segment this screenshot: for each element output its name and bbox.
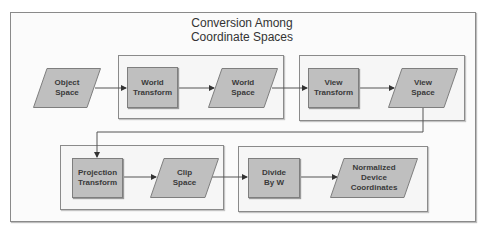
node-label: Space	[173, 178, 197, 188]
node-label: Object	[55, 78, 80, 88]
node-normalized-device-coordinates: NormalizedDeviceCoordinates	[330, 158, 418, 198]
node-label: View	[314, 78, 353, 88]
node-label: Space	[411, 88, 435, 98]
node-view-space: ViewSpace	[388, 68, 458, 108]
node-label: Space	[55, 88, 80, 98]
node-label: View	[411, 78, 435, 88]
node-label: Transform	[133, 88, 172, 98]
node-view-transform: ViewTransform	[308, 68, 359, 108]
node-divide-by-w: DivideBy W	[248, 158, 300, 198]
node-world-space: WorldSpace	[208, 68, 278, 108]
node-label: World	[231, 78, 255, 88]
node-label: World	[133, 78, 172, 88]
node-label: Divide	[262, 168, 286, 178]
node-clip-space: ClipSpace	[150, 158, 219, 198]
node-label: Space	[231, 88, 255, 98]
title-line-1: Conversion Among	[150, 16, 334, 30]
node-projection-transform: ProjectionTransform	[72, 158, 123, 198]
node-object-space: ObjectSpace	[33, 68, 101, 108]
title-line-2: Coordinate Spaces	[150, 30, 334, 44]
node-label: Projection	[78, 168, 117, 178]
node-label: By W	[262, 178, 286, 188]
node-label: Clip	[173, 168, 197, 178]
diagram-title: Conversion Among Coordinate Spaces	[150, 16, 334, 44]
node-label: Device	[351, 173, 398, 183]
node-label: Transform	[78, 178, 117, 188]
node-label: Coordinates	[351, 183, 398, 193]
node-label: Normalized	[351, 163, 398, 173]
node-label: Transform	[314, 88, 353, 98]
node-world-transform: WorldTransform	[127, 67, 178, 108]
